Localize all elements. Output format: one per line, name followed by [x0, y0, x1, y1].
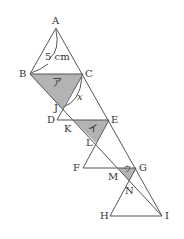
- label-j: J: [54, 103, 58, 113]
- label-i: I: [165, 211, 169, 221]
- label-e: E: [111, 115, 118, 125]
- label-k: K: [64, 124, 71, 134]
- label-h: H: [100, 211, 109, 221]
- label-c: C: [85, 69, 93, 79]
- label-b: B: [19, 69, 26, 79]
- length-label-ab: 5 cm: [45, 52, 70, 62]
- label-a: A: [52, 16, 59, 26]
- line-aci: [56, 28, 162, 216]
- label-l: L: [86, 138, 93, 148]
- geometry-diagram: [0, 0, 184, 239]
- region-label-a: ア: [52, 78, 62, 88]
- label-d: D: [47, 115, 55, 125]
- region-label-i: イ: [88, 124, 98, 134]
- label-f: F: [73, 163, 80, 173]
- label-n: N: [125, 186, 134, 196]
- label-m: M: [108, 172, 118, 182]
- region-label-u: ウ: [124, 166, 131, 173]
- angle-label-x: x: [77, 92, 83, 102]
- label-g: G: [139, 163, 147, 173]
